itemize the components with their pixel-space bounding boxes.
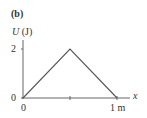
potential-energy-curve [23,49,117,98]
plot-area [0,0,147,118]
